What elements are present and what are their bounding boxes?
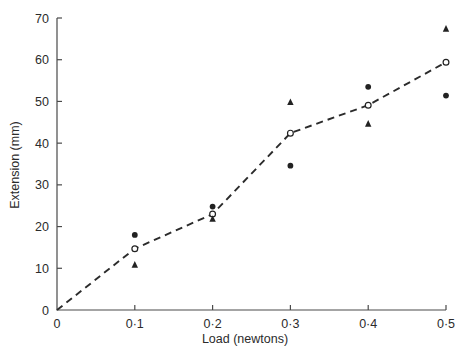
y-axis-title: Extension (mm) (8, 121, 22, 209)
trend-line-dashed (57, 62, 446, 310)
data-point-filled-circle (288, 163, 294, 169)
tick-labels: 01020304050607000·10·20·30·40·5 (35, 12, 455, 332)
y-tick-label: 0 (42, 304, 49, 318)
data-point-filled-circle (365, 84, 371, 90)
x-tick-label: 0·2 (204, 317, 222, 331)
extension-vs-load-chart: 01020304050607000·10·20·30·40·5 Load (ne… (0, 0, 463, 350)
axes (57, 18, 446, 310)
data-point-triangle (132, 261, 138, 268)
data-point-open-circle (132, 246, 138, 252)
x-tick-label: 0·5 (437, 317, 455, 331)
y-tick-label: 60 (35, 53, 49, 67)
y-tick-label: 70 (35, 12, 49, 26)
data-point-triangle (443, 25, 449, 32)
y-tick-label: 40 (35, 137, 49, 151)
y-tick-label: 50 (35, 95, 49, 109)
data-point-triangle (287, 98, 293, 105)
data-point-open-circle (288, 130, 294, 136)
x-tick-label: 0·4 (359, 317, 377, 331)
axis-spines (57, 18, 446, 310)
plot-area: 01020304050607000·10·20·30·40·5 Load (ne… (0, 0, 463, 350)
y-tick-label: 20 (35, 220, 49, 234)
data-point-triangle (365, 120, 371, 127)
trend-line-path (57, 62, 446, 310)
y-tick-label: 30 (35, 178, 49, 192)
data-point-filled-circle (210, 204, 216, 210)
data-markers (132, 25, 450, 268)
data-point-filled-circle (132, 232, 138, 238)
x-tick-label: 0 (54, 317, 61, 331)
tick-marks (57, 18, 446, 310)
data-point-open-circle (365, 102, 371, 108)
data-point-filled-circle (443, 93, 449, 99)
x-axis-title: Load (newtons) (202, 332, 288, 346)
x-tick-label: 0·3 (281, 317, 299, 331)
y-tick-label: 10 (35, 262, 49, 276)
data-point-open-circle (443, 59, 449, 65)
x-tick-label: 0·1 (126, 317, 144, 331)
